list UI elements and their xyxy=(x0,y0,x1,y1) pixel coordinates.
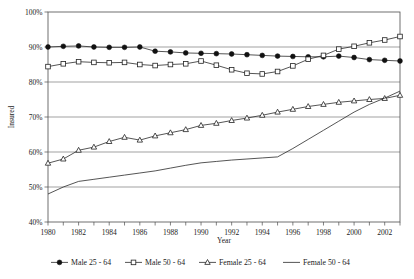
y-axis-tickmarks xyxy=(45,12,49,222)
data-point-marker xyxy=(229,52,234,57)
data-point-marker xyxy=(122,45,127,50)
legend-item-4[interactable]: Female 50 - 64 xyxy=(283,258,350,267)
data-point-marker xyxy=(260,72,265,77)
x-axis-tick-label: 1986 xyxy=(132,228,147,237)
x-axis-tickmarks xyxy=(48,222,400,226)
data-point-marker xyxy=(46,45,51,50)
data-point-marker xyxy=(367,41,372,46)
chart-container: 100%90%80%70%60%50%40% 19801982198419861… xyxy=(0,0,414,279)
data-point-marker xyxy=(122,60,127,65)
data-series xyxy=(45,34,402,194)
x-axis-tick-label: 1980 xyxy=(41,228,56,237)
data-point-marker xyxy=(397,92,402,97)
series-4 xyxy=(48,91,400,194)
data-point-marker xyxy=(367,57,372,62)
y-axis-tick-labels: 100%90%80%70%60%50%40% xyxy=(25,8,43,227)
data-point-marker xyxy=(168,50,173,55)
x-axis-tick-label: 1988 xyxy=(163,228,178,237)
legend-item-2[interactable]: Male 50 - 64 xyxy=(125,258,185,267)
legend-label: Female 25 - 64 xyxy=(219,258,266,267)
y-axis-title: Insured xyxy=(7,106,16,129)
data-point-marker xyxy=(306,57,311,62)
legend: Male 25 - 64Male 50 - 64Female 25 - 64Fe… xyxy=(51,258,350,267)
y-axis-tick-label: 40% xyxy=(29,218,43,227)
x-axis-title: Year xyxy=(217,236,231,245)
x-axis-tick-label: 2000 xyxy=(347,228,362,237)
data-point-marker xyxy=(92,45,97,50)
data-point-marker xyxy=(183,62,188,67)
data-point-marker xyxy=(61,44,66,49)
data-point-marker xyxy=(214,63,219,68)
data-point-marker xyxy=(76,59,81,64)
data-point-marker xyxy=(46,64,51,69)
data-point-marker xyxy=(92,60,97,65)
x-axis-tick-label: 1996 xyxy=(285,228,300,237)
data-point-marker xyxy=(275,69,280,74)
x-axis-tick-label: 2002 xyxy=(377,228,392,237)
data-point-marker xyxy=(214,51,219,56)
data-point-marker xyxy=(57,260,62,265)
data-point-marker xyxy=(205,260,210,265)
data-point-marker xyxy=(61,62,66,67)
data-point-marker xyxy=(107,45,112,50)
series-2 xyxy=(46,34,403,76)
data-point-marker xyxy=(382,38,387,43)
data-point-marker xyxy=(107,60,112,65)
data-point-marker xyxy=(229,67,234,72)
data-point-marker xyxy=(168,62,173,67)
series-3 xyxy=(45,92,402,165)
data-point-marker xyxy=(122,134,127,139)
legend-label: Male 50 - 64 xyxy=(145,258,185,267)
data-point-marker xyxy=(260,53,265,58)
x-axis-tick-label: 1994 xyxy=(255,228,270,237)
data-point-marker xyxy=(398,59,403,64)
data-point-marker xyxy=(321,53,326,58)
data-point-marker xyxy=(137,45,142,50)
data-point-marker xyxy=(183,51,188,56)
data-point-marker xyxy=(153,63,158,68)
gridlines xyxy=(48,47,400,187)
y-axis-tick-label: 70% xyxy=(29,113,43,122)
data-point-marker xyxy=(131,260,136,265)
x-axis-tick-label: 1984 xyxy=(102,228,117,237)
data-point-marker xyxy=(291,64,296,69)
data-point-marker xyxy=(76,44,81,49)
y-axis-tick-label: 100% xyxy=(25,8,43,17)
data-point-marker xyxy=(153,49,158,54)
insured-by-age-and-sex-line-chart: 100%90%80%70%60%50%40% 19801982198419861… xyxy=(0,0,414,279)
data-point-marker xyxy=(398,34,403,39)
y-axis-tick-label: 90% xyxy=(29,43,43,52)
data-point-marker xyxy=(290,54,295,59)
data-point-marker xyxy=(382,58,387,63)
data-point-marker xyxy=(336,47,341,52)
data-point-marker xyxy=(199,51,204,56)
data-point-marker xyxy=(245,71,250,76)
y-axis-tick-label: 50% xyxy=(29,183,43,192)
data-point-marker xyxy=(336,54,341,59)
legend-item-1[interactable]: Male 25 - 64 xyxy=(51,258,111,267)
legend-label: Male 25 - 64 xyxy=(71,258,111,267)
data-point-marker xyxy=(245,52,250,57)
series-1 xyxy=(46,44,403,64)
legend-item-3[interactable]: Female 25 - 64 xyxy=(199,258,266,267)
x-axis-tick-label: 1982 xyxy=(71,228,86,237)
x-axis-tick-label: 1990 xyxy=(194,228,209,237)
data-point-marker xyxy=(199,59,204,64)
legend-label: Female 50 - 64 xyxy=(303,258,350,267)
data-point-marker xyxy=(138,62,143,67)
data-point-marker xyxy=(61,156,66,161)
y-axis-tick-label: 80% xyxy=(29,78,43,87)
data-point-marker xyxy=(275,54,280,59)
y-axis-tick-label: 60% xyxy=(29,148,43,157)
data-point-marker xyxy=(352,44,357,49)
x-axis-tick-label: 1998 xyxy=(316,228,331,237)
data-point-marker xyxy=(352,55,357,60)
